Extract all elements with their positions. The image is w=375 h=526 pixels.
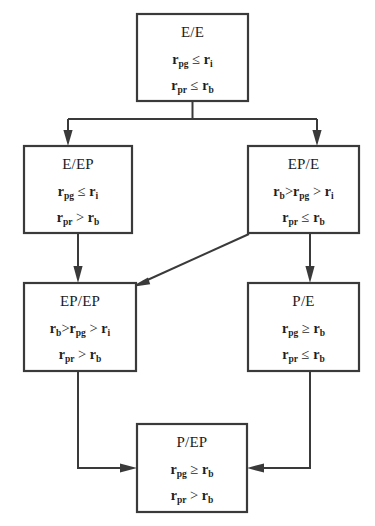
node-p-ep-title: P/EP <box>177 434 208 450</box>
edge-eep-epep-arrowhead <box>73 266 82 283</box>
edge-epe-pe-arrowhead <box>305 266 314 283</box>
node-e-ep[interactable]: E/EP rpg ≤ ri rpr > rb <box>24 146 132 233</box>
diagram-canvas: E/E rpg ≤ ri rpr ≤ rb E/EP rpg ≤ ri rpr … <box>0 0 375 526</box>
edge-pe-pep-arrowhead <box>247 463 264 472</box>
node-e-ep-title: E/EP <box>62 156 94 172</box>
edge-ee-epe-arrowhead <box>312 130 321 146</box>
edge-pe-pep-line <box>262 371 310 468</box>
node-e-ep-condition-1: rpg ≤ ri <box>58 183 99 201</box>
flowchart-diagram: E/E rpg ≤ ri rpr ≤ rb E/EP rpg ≤ ri rpr … <box>0 0 375 526</box>
node-ep-e-title: EP/E <box>288 156 320 172</box>
node-p-ep[interactable]: P/EP rpg ≥ rb rpr > rb <box>137 424 247 512</box>
edge-epep-pep-arrowhead <box>120 463 137 472</box>
edge-epe-epep-line <box>143 234 249 282</box>
node-e-e-condition-1: rpg ≤ ri <box>172 51 213 69</box>
node-e-e[interactable]: E/E rpg ≤ ri rpr ≤ rb <box>137 14 248 101</box>
node-e-e-title: E/E <box>181 24 204 40</box>
node-ep-ep[interactable]: EP/EP rb>rpg > ri rpr > rb <box>24 283 136 371</box>
node-p-e[interactable]: P/E rpg ≥ rb rpr ≤ rb <box>248 283 359 371</box>
node-ep-ep-title: EP/EP <box>60 293 100 309</box>
edge-ee-eep-arrowhead <box>63 130 72 146</box>
node-ep-e[interactable]: EP/E rb>rpg > ri rpr ≤ rb <box>248 146 359 233</box>
node-p-e-title: P/E <box>292 293 314 309</box>
edge-epep-pep-line <box>78 371 123 468</box>
